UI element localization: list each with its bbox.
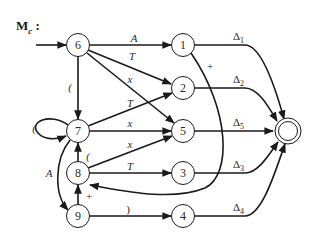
edge-label-8-5: x <box>127 138 133 150</box>
edge-label-6-1: A <box>130 32 138 44</box>
edge-label-6-5: x <box>127 73 133 85</box>
state-diagram: 6 1 2 7 5 8 3 9 4 A T x ( ( T x A ( x T … <box>0 0 318 241</box>
delta-label-5: Δ5 <box>233 116 244 131</box>
state-3-label: 3 <box>180 166 186 180</box>
delta-label-3: Δ3 <box>233 158 244 173</box>
edge-6-5 <box>87 53 174 123</box>
edge-label-7-9: A <box>45 167 53 179</box>
delta-label-2: Δ2 <box>233 73 244 88</box>
state-7-label: 7 <box>75 124 81 138</box>
edge-label-8-3: T <box>127 160 134 172</box>
state-2-label: 2 <box>180 81 186 95</box>
state-9-label: 9 <box>75 209 81 223</box>
edge-label-9-8: + <box>86 190 92 202</box>
edge-7-7-loop <box>35 119 68 139</box>
edge-label-7-5: x <box>127 117 133 129</box>
edge-label-6-7: ( <box>68 81 73 94</box>
edge-label-9-4: ) <box>126 203 130 216</box>
delta-label-1: Δ1 <box>233 30 244 45</box>
state-8-label: 8 <box>75 166 81 180</box>
edge-label-6-2: T <box>129 50 136 62</box>
final-state-inner <box>279 122 298 141</box>
edge-label-8-7: ( <box>86 150 91 163</box>
state-1-label: 1 <box>180 38 186 52</box>
state-5-label: 5 <box>180 124 186 138</box>
edge-label-1-8: + <box>207 60 213 72</box>
state-6-label: 6 <box>75 38 81 52</box>
state-4-label: 4 <box>180 209 186 223</box>
delta-label-4: Δ4 <box>233 201 244 216</box>
edge-label-7-2: T <box>127 97 134 109</box>
